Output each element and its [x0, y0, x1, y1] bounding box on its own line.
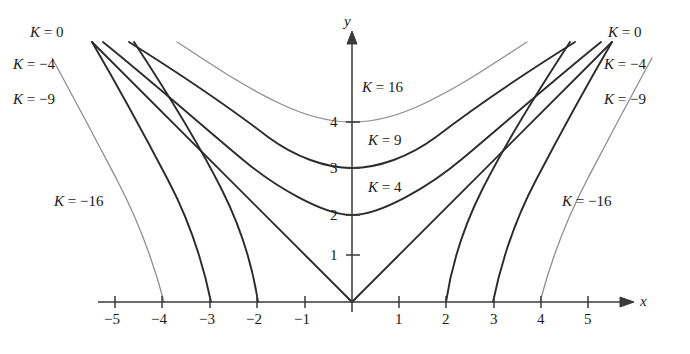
k-equals: = [40, 24, 56, 40]
k-equals: = [23, 56, 39, 72]
k-value: −16 [80, 193, 103, 209]
k-value: −16 [588, 193, 611, 209]
k-equals: = [618, 24, 634, 40]
curve-label-center-k-16: K = 16 [362, 80, 403, 95]
y-axis [346, 31, 360, 312]
k-symbol: K [54, 193, 64, 209]
y-tick-label-4: 4 [330, 115, 338, 130]
k-value: −4 [39, 56, 55, 72]
k-symbol: K [362, 79, 372, 95]
y-tick-label-1: 1 [330, 248, 338, 263]
k-equals: = [372, 79, 388, 95]
k-symbol: K [604, 56, 614, 72]
curve-label-center-k-4: K = 4 [368, 180, 401, 195]
curve-label-right-k-minus-4: K = −4 [604, 57, 646, 72]
x-tick-label--5: −5 [104, 312, 120, 327]
x-tick-label-1: 1 [395, 312, 403, 327]
k-value: 0 [56, 24, 64, 40]
k-equals: = [572, 193, 588, 209]
y-tick-label-2: 2 [330, 208, 338, 223]
k-value: −9 [630, 91, 646, 107]
k-equals: = [23, 91, 39, 107]
curve-label-right-k-0: K = 0 [608, 25, 641, 40]
y-axis-ticks [346, 122, 360, 255]
curve-label-left-k-minus-4: K = −4 [13, 57, 55, 72]
k-symbol: K [30, 24, 40, 40]
k-symbol: K [608, 24, 618, 40]
k-value: 4 [394, 179, 402, 195]
k-symbol: K [13, 91, 23, 107]
curve-label-left-k-minus-16: K = −16 [54, 194, 103, 209]
x-tick-label-4: 4 [537, 312, 545, 327]
x-tick-label--1: −1 [294, 312, 310, 327]
plot-area [0, 0, 690, 354]
k-equals: = [614, 56, 630, 72]
x-tick-label--2: −2 [246, 312, 262, 327]
curve-k-minus-16-left [52, 58, 164, 302]
x-axis-label: x [640, 294, 647, 309]
k-value: 0 [634, 24, 642, 40]
k-value: −4 [630, 56, 646, 72]
x-axis [98, 296, 634, 308]
k-value: −9 [39, 91, 55, 107]
k-value: 9 [394, 132, 402, 148]
k-equals: = [378, 132, 394, 148]
k-symbol: K [368, 179, 378, 195]
curve-label-center-k-9: K = 9 [368, 133, 401, 148]
level-curves-figure: −5 −4 −3 −2 −1 1 2 3 4 5 1 2 3 4 x y K =… [0, 0, 690, 354]
k-value: 16 [388, 79, 403, 95]
curve-label-left-k-0: K = 0 [30, 25, 63, 40]
k-equals: = [614, 91, 630, 107]
k-equals: = [378, 179, 394, 195]
x-tick-label--4: −4 [151, 312, 167, 327]
k-symbol: K [368, 132, 378, 148]
curve-label-left-k-minus-9: K = −9 [13, 92, 55, 107]
k-symbol: K [604, 91, 614, 107]
k-symbol: K [562, 193, 572, 209]
x-tick-label--3: −3 [199, 312, 215, 327]
curve-k-0-left [92, 42, 352, 302]
curve-label-right-k-minus-9: K = −9 [604, 92, 646, 107]
k-equals: = [64, 193, 80, 209]
y-axis-label: y [344, 14, 351, 29]
x-tick-label-2: 2 [442, 312, 450, 327]
y-tick-label-3: 3 [330, 161, 338, 176]
curve-label-right-k-minus-16: K = −16 [562, 194, 611, 209]
k-symbol: K [13, 56, 23, 72]
x-tick-label-5: 5 [584, 312, 592, 327]
x-tick-label-3: 3 [490, 312, 498, 327]
